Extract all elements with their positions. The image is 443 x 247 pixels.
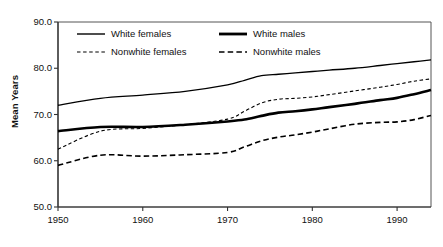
legend-swatch-solid-thin: [76, 29, 106, 39]
y-tick-label: 90.0: [20, 16, 52, 27]
legend-label-nonwhite-females: Nonwhite females: [111, 46, 187, 57]
legend-entry-nonwhite-males: Nonwhite males: [218, 44, 321, 59]
y-tick-label: 50.0: [20, 201, 52, 212]
x-tick-label: 1950: [38, 214, 78, 225]
legend-entry-nonwhite-females: Nonwhite females: [76, 44, 187, 59]
y-tick-label: 60.0: [20, 155, 52, 166]
x-tick-label: 1970: [208, 214, 248, 225]
x-tick-label: 1960: [123, 214, 163, 225]
legend-entry-white-females: White females: [76, 26, 171, 41]
y-tick-label: 80.0: [20, 62, 52, 73]
legend-label-white-males: White males: [253, 28, 305, 39]
y-tick-label: 70.0: [20, 109, 52, 120]
chart-figure: Mean Years 50.060.070.080.090.0 19501960…: [0, 0, 443, 247]
legend-swatch-solid-thick: [218, 29, 248, 39]
series-line-white-males: [58, 90, 431, 131]
legend-swatch-dashed-fine: [76, 47, 106, 57]
legend-swatch-dashed-coarse: [218, 47, 248, 57]
series-line-nonwhite-females: [58, 79, 431, 149]
series-line-nonwhite-males: [58, 115, 431, 165]
series-line-white-females: [58, 60, 431, 105]
legend-label-nonwhite-males: Nonwhite males: [253, 46, 321, 57]
legend-entry-white-males: White males: [218, 26, 305, 41]
x-tick-label: 1990: [377, 214, 417, 225]
y-axis-label: Mean Years: [9, 62, 20, 142]
legend-label-white-females: White females: [111, 28, 171, 39]
series-group: [58, 60, 431, 165]
x-tick-label: 1980: [292, 214, 332, 225]
chart-legend: White females White males Nonwhite femal…: [76, 26, 366, 60]
